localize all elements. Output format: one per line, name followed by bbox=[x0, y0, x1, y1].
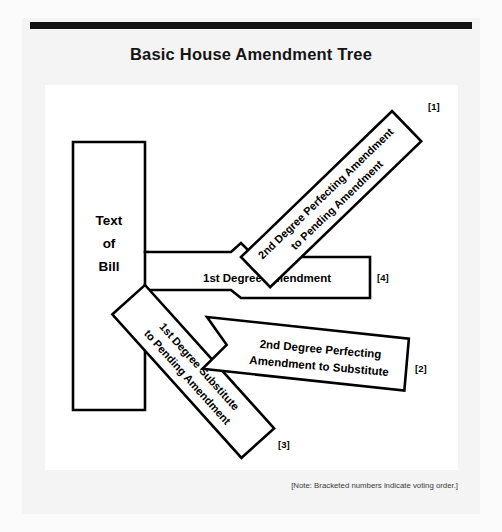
marker-first-degree-substitute: [3] bbox=[278, 439, 290, 450]
node-label-text-of-bill-line1: Text bbox=[96, 213, 123, 228]
node-text-of-bill: Text of Bill bbox=[73, 142, 147, 410]
page-root: Basic House Amendment Tree Text of Bill … bbox=[0, 0, 502, 532]
node-label-second-degree-perfecting-pending-line1: 2nd Degree Perfecting Amendment bbox=[256, 125, 396, 261]
header-rule bbox=[30, 22, 472, 29]
page-title: Basic House Amendment Tree bbox=[30, 45, 472, 64]
marker-second-degree-perfecting-substitute: [2] bbox=[415, 363, 427, 374]
node-second-degree-perfecting-substitute: 2nd Degree Perfecting Amendment to Subst… bbox=[202, 317, 409, 390]
footnote-note: [Note: Bracketed numbers indicate voting… bbox=[45, 481, 458, 490]
node-label-text-of-bill-line2: of bbox=[103, 236, 116, 251]
node-label-text-of-bill-line3: Bill bbox=[98, 259, 119, 274]
marker-second-degree-perfecting-pending: [1] bbox=[428, 101, 440, 112]
marker-first-degree-amendment: [4] bbox=[377, 272, 389, 283]
amendment-tree-diagram: Text of Bill 1st Degree Amendment [4] 2n… bbox=[45, 85, 458, 470]
